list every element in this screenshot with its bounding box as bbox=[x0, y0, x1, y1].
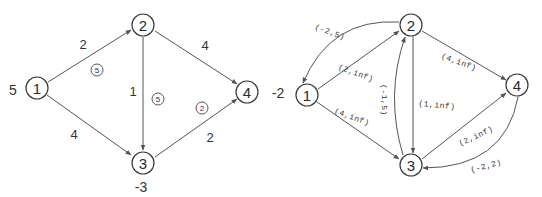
node-4-supply-shared: -2 bbox=[272, 85, 285, 101]
right-node-3: 3 bbox=[400, 154, 422, 176]
right-edge-1-2-label: (2,inf) bbox=[337, 62, 375, 83]
svg-text:1: 1 bbox=[33, 80, 41, 97]
right-edge-2-4-label: (4,inf) bbox=[440, 51, 478, 72]
right-node-1: 1 bbox=[296, 84, 318, 106]
left-node-3: 3 bbox=[132, 152, 154, 174]
left-node-3-supply: -3 bbox=[135, 179, 148, 195]
left-edge-2-4 bbox=[155, 31, 237, 84]
left-edge-1-2 bbox=[48, 30, 131, 82]
left-node-4: 4 bbox=[236, 81, 258, 103]
right-edge-2-4 bbox=[422, 31, 506, 80]
svg-text:2: 2 bbox=[200, 104, 205, 113]
svg-text:5: 5 bbox=[95, 66, 100, 75]
left-graph: 2 4 1 4 2 5 5 2 1 2 3 bbox=[9, 14, 258, 195]
right-edge-2-1-label: (-2,5) bbox=[314, 22, 347, 41]
left-edge-2-3-flow: 5 bbox=[152, 93, 164, 105]
svg-text:2: 2 bbox=[407, 17, 415, 34]
left-edge-3-4-flow: 2 bbox=[196, 102, 208, 114]
right-edge-1-2 bbox=[318, 31, 399, 89]
svg-text:3: 3 bbox=[407, 157, 415, 174]
left-node-2: 2 bbox=[132, 14, 154, 36]
svg-text:3: 3 bbox=[139, 155, 147, 172]
left-node-1-supply: 5 bbox=[9, 82, 17, 98]
left-edge-2-3-cost: 1 bbox=[129, 84, 136, 99]
right-edge-3-2-label: (-1,5) bbox=[380, 84, 389, 116]
left-edge-1-3-cost: 4 bbox=[70, 127, 77, 142]
svg-text:5: 5 bbox=[156, 95, 161, 104]
left-edge-2-4-cost: 4 bbox=[201, 38, 208, 53]
right-graph: -2 (-2,5) (2,inf) (4,inf) (-1,5) (1,inf)… bbox=[272, 14, 528, 176]
left-edge-1-2-cost: 2 bbox=[79, 37, 86, 52]
right-node-2: 2 bbox=[400, 14, 422, 36]
network-flow-diagram: 2 4 1 4 2 5 5 2 1 2 3 bbox=[0, 0, 542, 197]
left-edge-1-2-flow: 5 bbox=[91, 64, 103, 76]
left-edge-1-3 bbox=[47, 95, 131, 155]
svg-text:4: 4 bbox=[243, 84, 251, 101]
right-edge-3-4-label: (2,inf) bbox=[457, 124, 494, 148]
left-edge-3-4-cost: 2 bbox=[206, 130, 213, 145]
right-node-4: 4 bbox=[506, 74, 528, 96]
right-edge-4-3-label: (-2,2) bbox=[469, 158, 502, 175]
right-edge-2-3-label: (1,inf) bbox=[418, 99, 456, 111]
svg-text:2: 2 bbox=[139, 17, 147, 34]
svg-text:1: 1 bbox=[303, 87, 311, 104]
right-edge-3-2 bbox=[394, 37, 405, 155]
left-node-1: 1 bbox=[26, 77, 48, 99]
svg-text:4: 4 bbox=[513, 77, 521, 94]
